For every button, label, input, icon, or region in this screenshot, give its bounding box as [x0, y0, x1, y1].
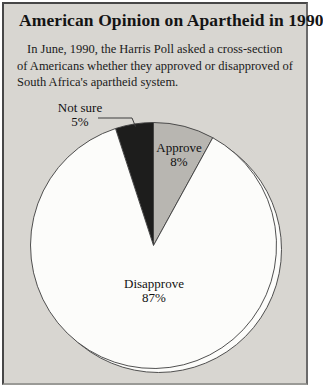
chart-card: American Opinion on Apartheid in 1990 In…	[2, 2, 308, 385]
slice-label-approve: Approve 8%	[135, 141, 223, 169]
slice-name: Not sure	[36, 101, 124, 115]
slice-value: 87%	[109, 291, 199, 305]
scanned-page: American Opinion on Apartheid in 1990 In…	[0, 0, 323, 391]
pie-chart	[4, 4, 306, 383]
slice-value: 8%	[135, 155, 223, 169]
slice-value: 5%	[36, 115, 124, 129]
slice-name: Approve	[135, 141, 223, 155]
slice-name: Disapprove	[109, 277, 199, 291]
slice-label-not-sure: Not sure 5%	[36, 101, 124, 129]
slice-label-disapprove: Disapprove 87%	[109, 277, 199, 305]
